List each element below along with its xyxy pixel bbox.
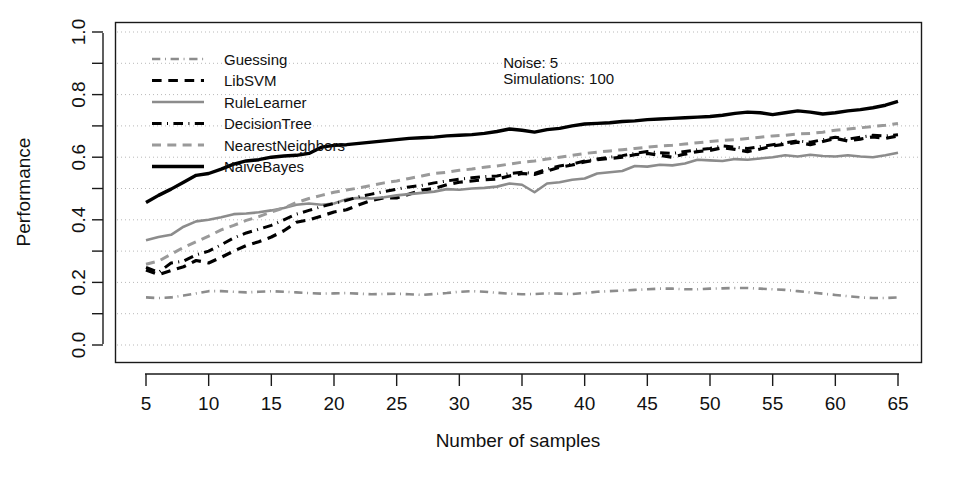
legend-label-decisiontree: DecisionTree — [224, 115, 312, 132]
x-tick-label: 50 — [699, 393, 720, 414]
series-line-guessing — [146, 288, 898, 298]
y-tick-label: 0.8 — [68, 81, 89, 107]
y-tick-label: 0.0 — [68, 332, 89, 358]
legend-label-naivebayes: NaiveBayes — [224, 158, 304, 175]
legend-label-rulelearner: RuleLearner — [224, 94, 307, 111]
chart-page: 0.00.20.40.60.81.0 510152025303540455055… — [0, 0, 954, 481]
performance-vs-samples-chart: 0.00.20.40.60.81.0 510152025303540455055… — [0, 0, 954, 481]
y-tick-label: 1.0 — [68, 19, 89, 45]
x-tick-label: 55 — [762, 393, 783, 414]
y-tick-label: 0.6 — [68, 144, 89, 170]
y-axis-title: Performance — [13, 138, 34, 247]
legend: GuessingLibSVMRuleLearnerDecisionTreeNea… — [152, 51, 345, 176]
y-tick-label: 0.4 — [68, 206, 89, 233]
x-tick-label: 40 — [574, 393, 595, 414]
x-tick-label: 60 — [825, 393, 846, 414]
x-axis: 5101520253035404550556065 — [141, 374, 909, 414]
x-tick-label: 25 — [386, 393, 407, 414]
y-tick-label: 0.2 — [68, 269, 89, 295]
legend-label-libsvm: LibSVM — [224, 72, 277, 89]
annotation-text: Noise: 5 — [503, 54, 558, 71]
x-tick-label: 20 — [323, 393, 344, 414]
x-tick-label: 5 — [141, 393, 152, 414]
x-tick-label: 10 — [198, 393, 219, 414]
x-tick-label: 45 — [637, 393, 658, 414]
legend-label-guessing: Guessing — [224, 51, 287, 68]
y-axis: 0.00.20.40.60.81.0 — [68, 19, 103, 358]
x-tick-label: 15 — [261, 393, 282, 414]
legend-label-nearestneighbors: NearestNeighbors — [224, 137, 345, 154]
annotation-text: Simulations: 100 — [503, 70, 614, 87]
annotations: Noise: 5Simulations: 100 — [503, 54, 614, 87]
x-tick-label: 65 — [887, 393, 908, 414]
x-tick-label: 35 — [511, 393, 532, 414]
x-tick-label: 30 — [449, 393, 470, 414]
x-axis-title: Number of samples — [436, 430, 601, 451]
